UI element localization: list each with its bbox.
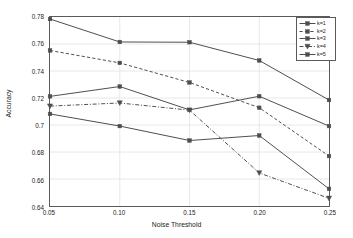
chart-legend: k=1k=2k=3k=4k=5	[296, 17, 336, 61]
legend-label: k=1	[316, 20, 326, 27]
legend-label: k=5	[316, 51, 326, 58]
legend-label: k=4	[316, 43, 326, 50]
y-tick-label: 0.74	[32, 67, 44, 74]
x-tick-label: 0.15	[183, 209, 195, 216]
legend-line-sample-icon	[299, 20, 316, 27]
legend-line-sample-icon	[299, 28, 316, 35]
legend-label: k=3	[316, 35, 326, 42]
legend-item-k2: k=2	[299, 28, 333, 36]
chart-figure: 0.640.660.680.70.720.740.760.78 0.050.10…	[0, 0, 353, 238]
plot-area	[49, 16, 330, 207]
legend-item-k5: k=5	[299, 50, 333, 58]
series-k4	[47, 101, 331, 201]
x-tick-label: 0.20	[254, 209, 266, 216]
x-tick-label: 0.25	[324, 209, 336, 216]
y-tick-label: 0.66	[32, 176, 44, 183]
x-tick-label: 0.05	[43, 209, 55, 216]
legend-label: k=2	[316, 28, 326, 35]
y-tick-label: 0.72	[32, 94, 44, 101]
data-series-layer	[50, 17, 329, 206]
legend-item-k4: k=4	[299, 43, 333, 51]
series-k1	[48, 17, 331, 102]
legend-item-k3: k=3	[299, 35, 333, 43]
series-k5	[48, 112, 331, 190]
y-tick-label: 0.68	[32, 149, 44, 156]
x-tick-label: 0.10	[113, 209, 125, 216]
legend-item-k1: k=1	[299, 20, 333, 28]
x-axis-label: Noise Threshold	[0, 221, 353, 228]
legend-line-sample-icon	[299, 43, 316, 50]
legend-line-sample-icon	[299, 51, 316, 58]
y-axis-label: Accuracy	[5, 74, 12, 134]
y-tick-label: 0.76	[32, 40, 44, 47]
legend-line-sample-icon	[299, 35, 316, 42]
y-tick-label: 0.7	[35, 122, 44, 129]
y-tick-label: 0.78	[32, 13, 44, 20]
